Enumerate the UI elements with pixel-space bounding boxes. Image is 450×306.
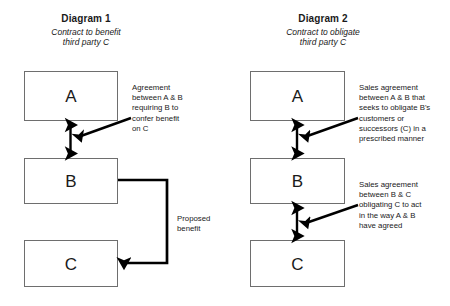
diagram-2-sales-agreement-bc-pointer — [306, 205, 358, 223]
diagram-1-connectors — [0, 0, 225, 306]
diagram-1-agreement-note: Agreement between A & B requiring B to c… — [132, 83, 202, 134]
diagram-1-arrow-b-c — [118, 180, 167, 263]
contract-third-party-diagram-figure: Diagram 1 Contract to benefit third part… — [0, 0, 450, 306]
diagram-2-sales-agreement-bc-note: Sales agreement between B & C obligating… — [359, 180, 449, 231]
diagram-1-agreement-pointer — [80, 118, 132, 137]
diagram-2-sales-agreement-ab-note: Sales agreement between A & B that seeks… — [359, 83, 449, 144]
diagram-2-sales-agreement-ab-pointer — [306, 118, 358, 137]
diagram-2-panel: Diagram 2 Contract to obligate third par… — [225, 0, 450, 306]
diagram-1-panel: Diagram 1 Contract to benefit third part… — [0, 0, 225, 306]
diagram-2-connectors — [225, 0, 450, 306]
